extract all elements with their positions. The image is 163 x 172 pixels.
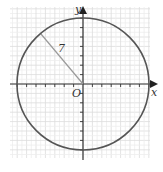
x-axis-label: x bbox=[151, 86, 158, 99]
x-axis bbox=[10, 80, 158, 88]
grid bbox=[10, 7, 150, 158]
y-axis bbox=[79, 6, 87, 160]
origin-label: O bbox=[72, 87, 81, 100]
y-axis-label: y bbox=[74, 3, 82, 16]
coordinate-diagram: y x O 7 bbox=[0, 0, 163, 172]
radius-label: 7 bbox=[58, 42, 65, 55]
